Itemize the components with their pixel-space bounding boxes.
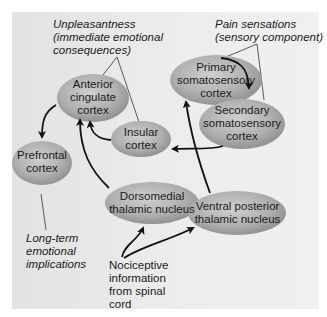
arrow-insular-to-acc (90, 122, 111, 140)
arrow-acc-to-prefrontal (42, 105, 56, 137)
annotation-pain-sensations: Pain sensations (sensory component) (215, 18, 323, 44)
label-anterior-cingulate: Anterior cingulate cortex (63, 78, 123, 117)
label-ventral-posterior: Ventral posterior thalamic nucleus (190, 200, 285, 226)
annotation-unpleasantness: Unpleasantness (immediate emotional cons… (53, 18, 163, 57)
label-dorsomedial: Dorsomedial thalamic nucleus (107, 190, 197, 216)
label-secondary-somatosensory: Secondary somatosensory cortex (197, 104, 287, 143)
source-nociceptive-information: Nociceptive information from spinal cord (109, 259, 168, 311)
label-primary-somatosensory: Primary somatosensory cortex (171, 61, 261, 100)
arrow-secondary-to-insular (173, 146, 223, 149)
arrow-source-to-ventral (124, 228, 193, 258)
label-insular: Insular cortex (116, 126, 166, 152)
arrow-dorsomedial-to-acc (80, 120, 109, 188)
annotation-long-term: Long-term emotional implications (26, 232, 86, 271)
label-prefrontal: Prefrontal cortex (12, 149, 72, 175)
